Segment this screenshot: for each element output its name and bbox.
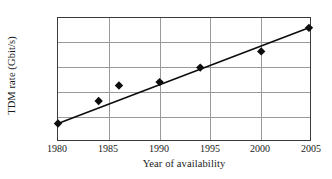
data-point-markers xyxy=(54,24,313,128)
y-axis-title: TDM rate (Gbit/s) xyxy=(6,10,22,141)
data-point-marker xyxy=(305,24,313,32)
gridline-vertical xyxy=(160,18,161,140)
x-axis-tick-label: 1980 xyxy=(35,143,79,154)
data-point-marker xyxy=(94,97,102,105)
data-point-marker xyxy=(115,81,123,89)
chart-figure: TDM rate (Gbit/s) Year of availability 1… xyxy=(0,0,332,179)
data-layer xyxy=(58,18,312,142)
gridline-vertical xyxy=(261,18,262,140)
x-axis-tick-label: 1985 xyxy=(86,143,130,154)
gridline-horizontal xyxy=(58,117,310,118)
gridline-vertical xyxy=(109,18,110,140)
plot-area xyxy=(57,17,311,141)
gridline-horizontal xyxy=(58,92,310,93)
gridline-horizontal xyxy=(58,67,310,68)
x-axis-title: Year of availability xyxy=(57,158,311,169)
x-axis-tick-label: 2005 xyxy=(289,143,332,154)
x-axis-tick-label: 1995 xyxy=(188,143,232,154)
gridline-horizontal xyxy=(58,42,310,43)
gridline-vertical xyxy=(210,18,211,140)
x-axis-tick-label: 1990 xyxy=(137,143,181,154)
x-axis-tick-label: 2000 xyxy=(238,143,282,154)
data-point-marker xyxy=(54,119,62,127)
